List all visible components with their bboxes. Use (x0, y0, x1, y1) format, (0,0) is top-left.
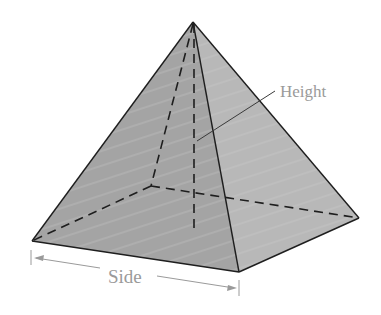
side-arrowhead-left (34, 255, 44, 261)
side-dimension-line-left (36, 258, 100, 268)
pyramid-diagram: Height Side (0, 0, 381, 315)
height-label: Height (280, 82, 327, 101)
side-dimension-line-right (157, 276, 234, 288)
side-label: Side (108, 266, 142, 287)
side-arrowhead-right (227, 285, 237, 291)
